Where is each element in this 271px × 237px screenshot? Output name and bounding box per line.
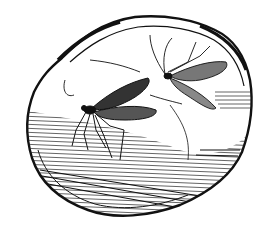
engraving-svg bbox=[0, 0, 271, 237]
amber-illustration bbox=[0, 0, 271, 237]
